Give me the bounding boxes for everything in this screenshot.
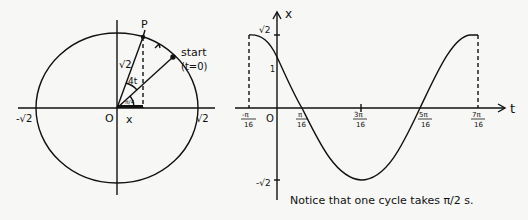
label-start-sub: (t=0) <box>181 61 208 72</box>
label-angle-pi4: π/4 <box>125 98 135 105</box>
xtick-den: 16 <box>297 121 306 129</box>
xtick-num: 7π <box>472 111 481 119</box>
axis-label-x: x <box>285 7 292 21</box>
graph-origin: O <box>266 113 274 124</box>
graph <box>235 12 505 200</box>
label-origin: O <box>105 112 114 125</box>
xtick-den: 16 <box>244 121 253 129</box>
direction-arrow <box>155 44 160 48</box>
diagram-canvas: P √2 4t π/4 start (t=0) O x -√2 √2 x t O… <box>0 0 528 220</box>
axis-label-t: t <box>510 101 515 116</box>
label-neg-sqrt2: -√2 <box>16 113 32 124</box>
point-p-marker <box>142 36 145 39</box>
start-point <box>171 55 175 59</box>
xtick-den: 16 <box>421 121 430 129</box>
xtick-den: 16 <box>356 121 365 129</box>
xtick-den: 16 <box>474 121 483 129</box>
label-radius: √2 <box>119 59 132 70</box>
xtick-num: π <box>298 111 303 119</box>
label-start: start <box>181 46 207 59</box>
graph-labels: x t O √2 1 -√2 -π 16 π 16 3π 16 5π 16 7π… <box>241 7 515 207</box>
xtick-num: 3π <box>354 111 363 119</box>
label-pos-sqrt2: √2 <box>196 113 209 124</box>
cycle-note: Notice that one cycle takes π/2 s. <box>290 194 473 207</box>
xtick-num: 5π <box>419 111 428 119</box>
label-angle-4t: 4t <box>128 76 138 86</box>
x-projection-bar <box>117 105 143 108</box>
label-x-proj: x <box>126 113 133 126</box>
label-p: P <box>141 18 148 31</box>
circle-labels: P √2 4t π/4 start (t=0) O x -√2 √2 <box>16 18 209 126</box>
ytick-one: 1 <box>270 65 275 74</box>
ytick-neg-sqrt2: -√2 <box>256 178 271 188</box>
xtick-num: -π <box>242 111 250 119</box>
ytick-sqrt2: √2 <box>259 25 270 35</box>
